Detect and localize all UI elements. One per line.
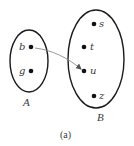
set-a-label: A bbox=[22, 96, 30, 108]
set-a: b g A bbox=[10, 30, 48, 108]
element-s-dot bbox=[92, 22, 97, 27]
set-a-ellipse bbox=[10, 30, 48, 92]
element-g: g bbox=[19, 65, 33, 76]
element-u: u bbox=[82, 65, 97, 76]
set-b-label: B bbox=[97, 111, 104, 123]
set-mapping-diagram: b g A s t u z B (a) bbox=[0, 0, 134, 146]
element-b-dot bbox=[29, 45, 34, 50]
element-z: z bbox=[92, 90, 105, 101]
element-g-dot bbox=[29, 69, 34, 74]
element-z-label: z bbox=[98, 90, 105, 101]
element-u-label: u bbox=[90, 65, 96, 76]
element-t-label: t bbox=[90, 41, 95, 52]
element-s: s bbox=[92, 18, 104, 29]
set-b: s t u z B bbox=[68, 10, 124, 123]
element-t: t bbox=[82, 41, 95, 52]
element-z-dot bbox=[92, 94, 97, 99]
element-g-label: g bbox=[19, 65, 25, 76]
element-s-label: s bbox=[99, 18, 104, 29]
element-t-dot bbox=[82, 45, 87, 50]
mapping-arrow-b-to-u bbox=[35, 48, 81, 69]
figure-caption: (a) bbox=[60, 129, 71, 141]
element-b-label: b bbox=[19, 41, 25, 52]
element-u-dot bbox=[82, 69, 87, 74]
element-b: b bbox=[19, 41, 33, 52]
